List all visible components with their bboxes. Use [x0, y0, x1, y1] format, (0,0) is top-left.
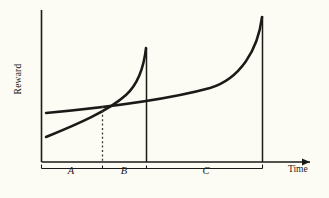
x-axis-label: Time: [288, 164, 308, 174]
y-axis-label: Reward: [13, 49, 23, 109]
first-exponential-episode: [46, 48, 146, 137]
segment-label-a: A: [63, 165, 79, 176]
reward-vs-time-figure: Reward Time A B C: [0, 0, 329, 198]
baseline-shallow-curve: [46, 17, 262, 113]
segment-label-c: C: [198, 165, 214, 176]
segment-label-b: B: [116, 165, 132, 176]
plot-canvas: [0, 0, 329, 198]
